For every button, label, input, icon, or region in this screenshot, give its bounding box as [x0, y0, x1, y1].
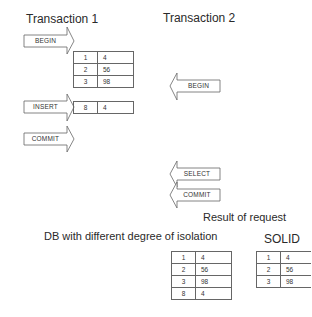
table-row: 256 [257, 264, 312, 276]
table-row: 14 [257, 252, 312, 264]
result-title: Result of request [203, 211, 286, 223]
table-row: 14 [172, 252, 232, 264]
table-row: 398 [172, 276, 232, 288]
isolation-result-table: 14 256 398 84 [171, 251, 232, 300]
solid-title: SOLID [264, 232, 300, 246]
solid-result-table: 14 256 398 [256, 251, 311, 288]
t2-commit-label: COMMIT [177, 191, 217, 198]
table-row: 398 [257, 276, 312, 288]
table-row: 84 [172, 288, 232, 300]
isolation-title: DB with different degree of isolation [44, 230, 217, 242]
table-row: 256 [172, 264, 232, 276]
